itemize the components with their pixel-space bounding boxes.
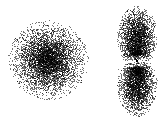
p-orbital-lower-lobe [117, 63, 157, 119]
p-orbital-upper-lobe [117, 5, 157, 61]
s-orbital-cloud [8, 20, 88, 100]
p-orbital-nucleus [136, 60, 138, 62]
orbital-figure [0, 0, 167, 126]
